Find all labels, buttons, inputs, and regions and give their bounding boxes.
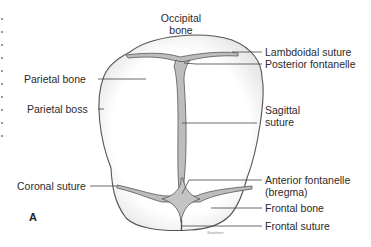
label-anterior-line1: Anterior fontanelle: [265, 174, 350, 186]
label-sagittal-suture: Sagittal suture: [265, 104, 300, 128]
label-parietal-bone: Parietal bone: [24, 73, 86, 85]
label-coronal-suture: Coronal suture: [17, 180, 86, 192]
label-sagittal-line2: suture: [265, 116, 300, 128]
fetal-skull-diagram: Occipital bone Lambdoidal suture Posteri…: [0, 0, 371, 247]
label-frontal-bone: Frontal bone: [265, 202, 324, 214]
label-posterior-fontanelle: Posterior fontanelle: [265, 58, 355, 70]
label-parietal-boss: Parietal boss: [27, 103, 88, 115]
label-sagittal-line1: Sagittal: [265, 104, 300, 116]
label-anterior-line2: (bregma): [265, 186, 350, 198]
label-frontal-suture: Frontal suture: [265, 220, 330, 232]
label-anterior-fontanelle: Anterior fontanelle (bregma): [265, 174, 350, 198]
illustrator-signature: Stephens: [207, 230, 224, 235]
label-lambdoidal-suture: Lambdoidal suture: [265, 46, 351, 58]
panel-letter: A: [29, 211, 37, 223]
label-occipital-line2: bone: [151, 24, 211, 36]
label-occipital-bone: Occipital bone: [151, 12, 211, 36]
label-occipital-line1: Occipital: [151, 12, 211, 24]
